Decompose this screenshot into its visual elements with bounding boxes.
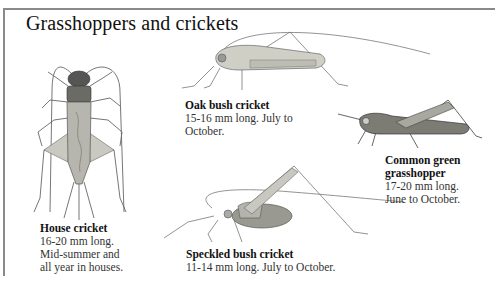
species-name: Oak bush cricket <box>185 99 293 112</box>
caption-house-cricket: House cricket 16-20 mm long. Mid-summer … <box>40 222 123 274</box>
caption-oak-bush-cricket: Oak bush cricket 15-16 mm long. July to … <box>185 99 293 138</box>
species-desc-line: October. <box>185 125 293 138</box>
species-desc-line: Mid-summer and <box>40 248 123 261</box>
species-desc-line: 15-16 mm long. July to <box>185 112 293 125</box>
caption-common-green-grasshopper: Common green grasshopper 17-20 mm long. … <box>385 154 461 206</box>
species-desc-line: 16-20 mm long. <box>40 235 123 248</box>
species-desc-line: all year in houses. <box>40 261 123 274</box>
caption-speckled-bush-cricket: Speckled bush cricket 11-14 mm long. Jul… <box>186 248 335 274</box>
species-desc-line: June to October. <box>385 193 461 206</box>
house-cricket-illustration <box>20 62 140 222</box>
speckled-bush-cricket-illustration <box>162 162 422 246</box>
frame-left-border <box>3 8 5 276</box>
species-name: House cricket <box>40 222 123 235</box>
species-name: Common green <box>385 154 461 167</box>
frame-top-border <box>3 8 495 10</box>
species-desc-line: 17-20 mm long. <box>385 180 461 193</box>
oak-bush-cricket-illustration <box>170 26 430 94</box>
species-desc-line: 11-14 mm long. July to October. <box>186 261 335 274</box>
species-name: Speckled bush cricket <box>186 248 335 261</box>
species-name: grasshopper <box>385 167 461 180</box>
common-green-grasshopper-illustration <box>336 94 486 150</box>
